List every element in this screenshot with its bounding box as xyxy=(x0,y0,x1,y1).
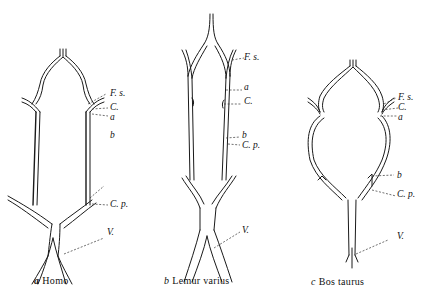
caption-homo: aHomo xyxy=(34,276,69,286)
homo-vessel-drawing xyxy=(8,49,108,284)
bos-label-a: a xyxy=(398,113,403,123)
caption-letter: b xyxy=(164,275,169,286)
caption-species: Lemur varius xyxy=(172,275,229,286)
homo-label-v: V. xyxy=(107,228,114,238)
bos-vessel-drawing xyxy=(308,60,398,268)
homo-label-b: b xyxy=(110,131,115,141)
homo-label-a: a xyxy=(110,113,115,123)
lemur-label-cp: C. p. xyxy=(242,141,260,151)
lemur-label-c: C. xyxy=(244,97,253,107)
bos-label-cp: C. p. xyxy=(397,190,415,200)
lemur-label-a: a xyxy=(244,83,249,93)
vessel-comparison-figure: F. s. C. a b C. p. V. F. s. a C. b C. p.… xyxy=(0,0,427,296)
bos-label-b: b xyxy=(397,171,402,181)
vessel-drawings xyxy=(0,0,427,296)
homo-label-fs: F. s. xyxy=(110,89,125,99)
bos-label-v: V. xyxy=(397,232,404,242)
caption-bos: cBos taurus xyxy=(311,277,364,287)
caption-lemur: bLemur varius xyxy=(164,276,230,286)
lemur-label-fs: F. s. xyxy=(244,53,259,63)
caption-species: Bos taurus xyxy=(319,276,365,287)
homo-label-cp: C. p. xyxy=(110,200,128,210)
caption-letter: c xyxy=(311,276,316,287)
caption-species: Homo xyxy=(42,275,68,286)
caption-letter: a xyxy=(34,275,39,286)
lemur-vessel-drawing xyxy=(182,14,244,282)
lemur-label-v: V. xyxy=(242,226,249,236)
